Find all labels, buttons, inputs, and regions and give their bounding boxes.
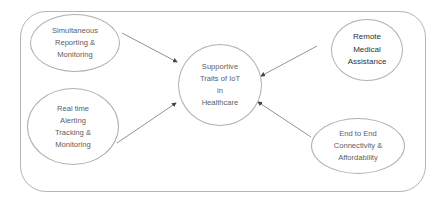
- node-label: Real time Alerting Tracking & Monitoring: [55, 103, 91, 151]
- node-label: Remote Medical Assistance: [348, 31, 387, 69]
- arrow-realtime-to-center: [117, 103, 176, 143]
- arrow-remote-to-center: [261, 46, 317, 76]
- arrow-simultaneous-to-center: [122, 33, 177, 62]
- arrow-endtoend-to-center: [258, 102, 311, 137]
- center-node-label: Supportive Traits of IoT in Healthcare: [200, 61, 240, 109]
- node-end-to-end-connectivity: End to End Connectivity & Affordability: [311, 118, 405, 174]
- center-node: Supportive Traits of IoT in Healthcare: [178, 44, 262, 126]
- node-realtime-alerting: Real time Alerting Tracking & Monitoring: [27, 88, 119, 165]
- node-remote-medical-assistance: Remote Medical Assistance: [331, 19, 403, 81]
- node-label: Simultaneous Reporting & Monitoring: [52, 25, 98, 61]
- node-simultaneous-reporting: Simultaneous Reporting & Monitoring: [30, 14, 120, 72]
- node-label: End to End Connectivity & Affordability: [334, 128, 383, 164]
